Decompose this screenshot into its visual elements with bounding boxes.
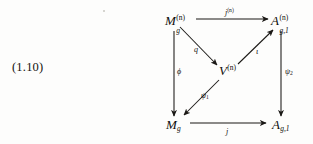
node-M-g-n: M(n)g [165, 14, 176, 27]
node-V-n: V(n) [219, 64, 236, 77]
node-A-g1-n: A(n)g,1 [271, 14, 279, 27]
arrow-q [180, 27, 217, 65]
node-A-g1-base: A [272, 117, 280, 132]
arrow-label-j: j [226, 128, 228, 136]
arrow-label-q-text: q [194, 45, 198, 54]
arrow-label-iota: ι [256, 48, 258, 56]
arrow-label-psi1-subscript: 1 [206, 94, 209, 100]
node-M-g-n-base: M [165, 13, 176, 28]
node-A-g1-subscript: g,1 [280, 124, 289, 133]
node-M-g-base: M [166, 117, 177, 132]
node-M-g: Mg [166, 118, 181, 133]
arrow-label-phi: ϕ [177, 68, 181, 76]
figure-canvas: (1.10) M(n)g A(n)g,1 V(n) Mg [0, 0, 313, 144]
arrow-label-psi2-subscript: 2 [290, 70, 293, 76]
node-M-g-subscript: g [177, 124, 181, 133]
node-V-n-superscript: (n) [227, 63, 236, 72]
arrow-label-jn: j(n) [225, 8, 234, 17]
node-V-n-base: V [219, 63, 227, 78]
arrow-label-phi-text: ϕ [177, 67, 181, 76]
arrow-label-psi1: ψ1 [201, 92, 209, 101]
arrow-label-jn-superscript: (n) [227, 7, 234, 13]
arrow-label-q: q [194, 46, 198, 54]
arrow-label-psi2: ψ2 [285, 68, 293, 77]
node-A-g1: Ag,1 [272, 118, 290, 133]
arrow-label-j-text: j [226, 127, 228, 136]
node-A-g1-n-base: A [271, 13, 279, 28]
arrow-label-iota-text: ι [256, 47, 258, 56]
diagram-arrows [0, 0, 313, 144]
